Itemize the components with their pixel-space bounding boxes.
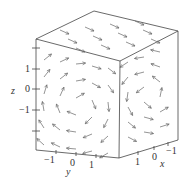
z-tick-neg1: −1 xyxy=(19,105,30,115)
y-tick-1: 1 xyxy=(89,160,94,170)
x-tick-neg1: −1 xyxy=(166,146,177,156)
z-axis-label: z xyxy=(11,86,15,96)
z-tick-1: 1 xyxy=(25,64,30,74)
cube-top-face xyxy=(36,11,178,61)
y-tick-0: 0 xyxy=(70,158,75,168)
cube-front-edge xyxy=(119,61,120,158)
y-axis-label: y xyxy=(66,167,70,177)
x-tick-1: 1 xyxy=(135,157,140,167)
axis-ticks xyxy=(32,48,168,158)
vector-arrows xyxy=(37,21,169,158)
y-tick-neg1: −1 xyxy=(44,155,55,165)
x-tick-0: 0 xyxy=(152,152,157,162)
cube-box xyxy=(36,11,178,158)
x-axis-label: x xyxy=(160,159,164,169)
z-tick-0: 0 xyxy=(25,84,30,94)
